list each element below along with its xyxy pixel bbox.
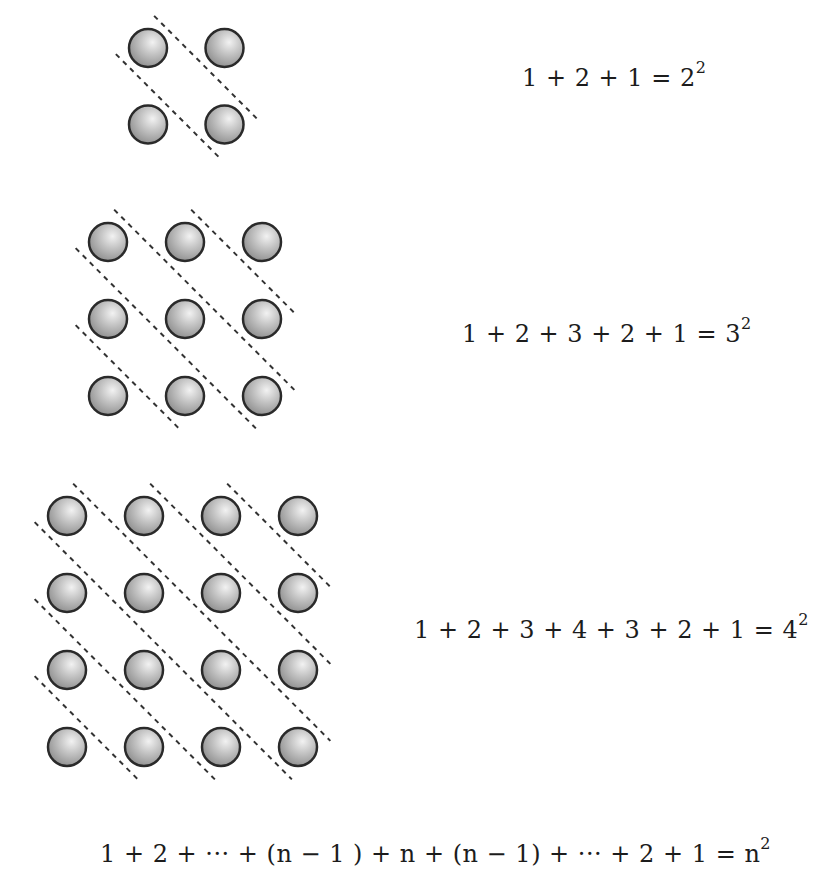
dot-grid-4x4 — [35, 484, 331, 780]
dot — [48, 497, 86, 535]
dot-grid-2x2 — [116, 16, 257, 157]
dot — [89, 377, 127, 415]
diagonal-separator — [116, 54, 219, 157]
diagonal-separator — [227, 484, 330, 587]
dot — [166, 377, 204, 415]
dot — [243, 223, 281, 261]
diagonal-separator — [191, 210, 294, 313]
dot — [202, 497, 240, 535]
diagonal-separator — [154, 16, 257, 119]
square-sum-diagram — [0, 0, 827, 874]
diagonal-separator — [76, 325, 179, 428]
diagonal-separator — [35, 676, 138, 779]
dot — [129, 106, 167, 144]
dot — [202, 651, 240, 689]
dot — [206, 29, 244, 67]
dot — [125, 728, 163, 766]
dot — [89, 300, 127, 338]
dot-grid-3x3 — [76, 210, 295, 429]
dot — [202, 728, 240, 766]
dot — [89, 223, 127, 261]
dot — [125, 497, 163, 535]
dot — [125, 651, 163, 689]
dot — [279, 574, 317, 612]
dot — [279, 497, 317, 535]
dot — [279, 651, 317, 689]
dot — [129, 29, 167, 67]
equation-general: 1 + 2 + ··· + (n − 1 ) + n + (n − 1) + ·… — [100, 838, 771, 868]
dot — [48, 574, 86, 612]
dot — [48, 728, 86, 766]
dot — [279, 728, 317, 766]
equation-3x3: 1 + 2 + 3 + 2 + 1 = 32 — [462, 318, 752, 348]
dot — [48, 651, 86, 689]
dot — [125, 574, 163, 612]
dot — [166, 223, 204, 261]
dot — [243, 377, 281, 415]
equation-2x2: 1 + 2 + 1 = 22 — [522, 62, 706, 92]
dot — [206, 106, 244, 144]
dot — [243, 300, 281, 338]
dot — [202, 574, 240, 612]
dot — [166, 300, 204, 338]
equation-4x4: 1 + 2 + 3 + 4 + 3 + 2 + 1 = 42 — [414, 614, 809, 644]
